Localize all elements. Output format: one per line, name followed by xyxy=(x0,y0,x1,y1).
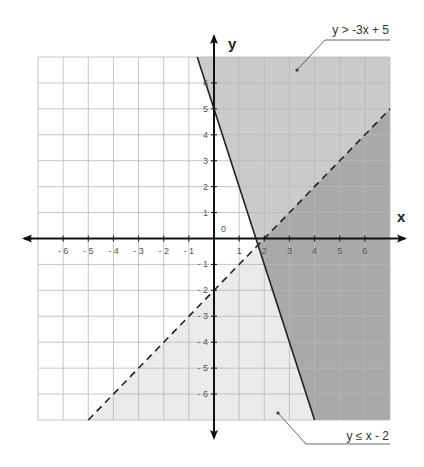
y-tick-label: 5 xyxy=(203,104,208,114)
chart-canvas: - 6- 5- 4- 3- 2- 1123456- 6- 5- 4- 3- 2-… xyxy=(0,0,424,467)
x-tick-label: - 6 xyxy=(58,246,69,256)
y-tick-label: - 1 xyxy=(197,259,208,269)
inequality-label-2: y ≤ x - 2 xyxy=(346,429,389,443)
y-tick-label: - 4 xyxy=(197,337,208,347)
inequality-graph: - 6- 5- 4- 3- 2- 1123456- 6- 5- 4- 3- 2-… xyxy=(0,0,424,467)
y-tick-label: - 6 xyxy=(197,389,208,399)
y-tick-label: 4 xyxy=(203,130,208,140)
y-tick-label: - 2 xyxy=(197,285,208,295)
x-tick-label: 6 xyxy=(362,246,367,256)
y-tick-label: - 3 xyxy=(197,311,208,321)
x-tick-label: - 2 xyxy=(158,246,169,256)
y-tick-label: - 5 xyxy=(197,363,208,373)
y-axis-label: y xyxy=(228,35,237,52)
x-tick-label: 5 xyxy=(337,246,342,256)
x-tick-label: - 5 xyxy=(83,246,94,256)
x-tick-label: 2 xyxy=(262,246,267,256)
x-tick-label: - 4 xyxy=(108,246,119,256)
x-tick-label: - 1 xyxy=(184,246,195,256)
y-tick-label: 1 xyxy=(203,208,208,218)
x-tick-label: - 3 xyxy=(133,246,144,256)
x-tick-label: 1 xyxy=(237,246,242,256)
y-tick-label: 6 xyxy=(203,78,208,88)
origin-label: 0 xyxy=(221,224,226,234)
y-tick-label: 3 xyxy=(203,156,208,166)
x-tick-label: 3 xyxy=(287,246,292,256)
y-tick-label: 2 xyxy=(203,182,208,192)
x-tick-label: 4 xyxy=(312,246,317,256)
x-axis-label: x xyxy=(397,208,406,225)
inequality-label-1: y > -3x + 5 xyxy=(332,23,389,37)
